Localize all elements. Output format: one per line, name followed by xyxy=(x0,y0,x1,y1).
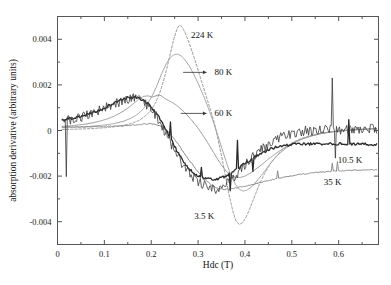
curve-label-60-k: 60 K xyxy=(214,108,232,118)
x-tick-label: 0.6 xyxy=(333,249,344,259)
curve-label-10-5-k: 10.5 K xyxy=(338,155,363,165)
series-curve-60-k xyxy=(62,95,376,177)
x-tick-label: 0.5 xyxy=(286,249,297,259)
plot-frame xyxy=(58,17,379,245)
x-tick-label: 0.2 xyxy=(146,249,157,259)
data-curves xyxy=(62,25,376,224)
x-tick-label: 0.3 xyxy=(193,249,204,259)
series-curve-3-5-k xyxy=(62,78,376,194)
x-tick-label: 0 xyxy=(55,249,59,259)
y-tick-label: -0.004 xyxy=(30,217,53,227)
curve-label-3-5-k: 3.5 K xyxy=(194,211,215,221)
annotation-arrowhead xyxy=(203,70,207,74)
curve-label-35-k: 35 K xyxy=(324,177,342,187)
y-tick-label: -0.002 xyxy=(30,171,52,181)
y-tick-label: 0 xyxy=(47,126,51,136)
chart-figure: 00.10.20.30.40.50.60.0040.0020-0.002-0.0… xyxy=(0,0,391,285)
series-curve-224-k xyxy=(62,25,376,224)
y-axis-title: absorption derivative (arbitrary units) xyxy=(8,59,19,202)
absorption-derivative-chart: 00.10.20.30.40.50.60.0040.0020-0.002-0.0… xyxy=(0,0,391,285)
curve-annotations: 224 K80 K60 K10.5 K35 K3.5 K xyxy=(181,30,363,221)
x-tick-label: 0.1 xyxy=(99,249,110,259)
y-tick-label: 0.004 xyxy=(32,34,52,44)
x-axis-title: Hdc (T) xyxy=(203,260,233,271)
curve-label-80-k: 80 K xyxy=(214,67,232,77)
axis-titles: Hdc (T)absorption derivative (arbitrary … xyxy=(8,59,233,271)
x-tick-label: 0.4 xyxy=(240,249,251,259)
y-tick-label: 0.002 xyxy=(32,80,51,90)
curve-label-224-k: 224 K xyxy=(191,30,214,40)
annotation-arrowhead xyxy=(203,112,207,116)
